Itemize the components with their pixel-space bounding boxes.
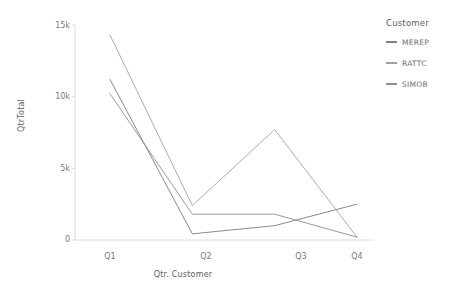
series-line-rattc bbox=[110, 35, 357, 237]
legend-item-merep[interactable]: MEREP bbox=[386, 37, 452, 47]
legend-swatch-rattc bbox=[386, 62, 397, 63]
legend-swatch-simob bbox=[386, 83, 397, 84]
legend-swatch-merep bbox=[386, 41, 397, 42]
line-chart: QtrTotal 15k 10k 5k 0 Q1 Q2 Q3 Q4 Qtr. C… bbox=[0, 0, 456, 297]
legend-label-simob: SIMOB bbox=[402, 80, 428, 89]
legend-item-rattc[interactable]: RATTC bbox=[386, 58, 452, 68]
series-line-merep bbox=[110, 79, 357, 233]
legend-label-rattc: RATTC bbox=[402, 59, 427, 68]
series-lines bbox=[110, 35, 357, 237]
legend-title: Customer bbox=[386, 18, 452, 28]
series-line-simob bbox=[110, 94, 357, 237]
legend-label-merep: MEREP bbox=[402, 38, 429, 47]
legend: Customer MEREP RATTC SIMOB bbox=[386, 18, 452, 100]
legend-item-simob[interactable]: SIMOB bbox=[386, 79, 452, 89]
